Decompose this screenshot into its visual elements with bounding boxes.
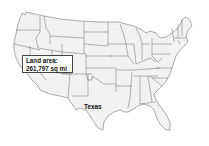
callout-line-1: Land area:: [26, 57, 70, 65]
us-states-map: [0, 0, 209, 146]
land-area-callout: Land area: 261,797 sq mi: [22, 55, 73, 73]
callout-line-2: 261,797 sq mi: [26, 65, 70, 73]
texas-label: Texas: [84, 103, 102, 110]
